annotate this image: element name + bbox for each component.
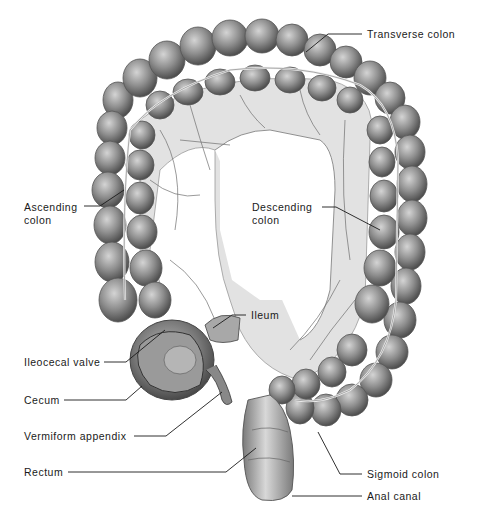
label-ascending-colon: Ascending colon — [24, 201, 104, 227]
label-descending-colon: Descending colon — [252, 201, 332, 227]
label-ascending-colon-line2: colon — [24, 214, 104, 227]
label-cecum: Cecum — [24, 394, 60, 407]
label-vermiform-appendix: Vermiform appendix — [24, 430, 126, 443]
label-anal-canal: Anal canal — [367, 490, 421, 503]
cecum — [130, 320, 214, 400]
label-ascending-colon-line1: Ascending — [24, 201, 104, 214]
label-descending-colon-line2: colon — [252, 214, 332, 227]
label-descending-colon-line1: Descending — [252, 201, 332, 214]
label-ileum: Ileum — [251, 309, 279, 322]
label-transverse-colon: Transverse colon — [367, 28, 455, 41]
large-intestine-illustration — [0, 0, 482, 530]
label-sigmoid-colon: Sigmoid colon — [367, 468, 439, 481]
label-ileocecal-valve: Ileocecal valve — [24, 356, 100, 369]
label-rectum: Rectum — [24, 466, 63, 479]
ileum — [205, 315, 240, 342]
vermiform-appendix — [206, 365, 232, 405]
